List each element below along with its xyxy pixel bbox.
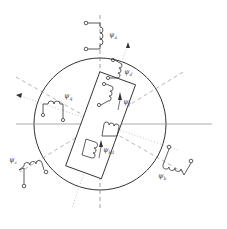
winding-q: [41, 101, 64, 122]
svg-text:ψc: ψc: [9, 156, 18, 165]
winding-c: [19, 160, 48, 187]
machine-diagram: ψa ψd ψf ψkd ψq ψc ψb: [0, 0, 227, 229]
svg-text:ψb: ψb: [158, 172, 167, 181]
rotor: [66, 72, 136, 179]
svg-text:ψa: ψa: [109, 31, 118, 40]
svg-text:ψq: ψq: [64, 92, 73, 101]
svg-text:ψd: ψd: [124, 68, 133, 77]
winding-d: [106, 58, 122, 79]
q-axis-arrow-icon: [16, 93, 22, 98]
d-axis-arrow-icon: [126, 42, 130, 48]
